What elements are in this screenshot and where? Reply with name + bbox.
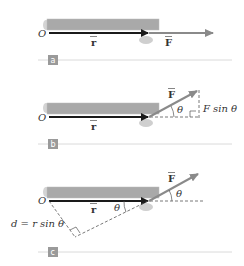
panel-badge-a-text: a — [51, 56, 56, 65]
panel-b: θ F sin θ O r F b — [38, 89, 237, 150]
rod — [47, 19, 159, 30]
panel-badge-b-text: b — [51, 140, 56, 149]
r-label: r — [91, 37, 97, 48]
panel-badge-c-text: c — [51, 248, 55, 257]
panel-c: θ θ O r F d = r sin θ c — [11, 173, 232, 258]
r-label: r — [91, 204, 97, 215]
rod — [47, 187, 159, 198]
F-line-extension-dashed — [75, 201, 148, 237]
r-label: r — [91, 121, 97, 132]
theta-arc-top — [169, 190, 172, 201]
moment-arm-label: d = r sin θ — [11, 218, 64, 229]
theta-label: θ — [177, 104, 183, 115]
pivot-knob — [139, 36, 153, 44]
F-label: F — [165, 37, 172, 48]
origin-label: O — [38, 112, 46, 123]
F-label: F — [168, 89, 175, 100]
right-angle-marker — [190, 111, 196, 117]
F-sin-theta-label: F sin θ — [202, 103, 237, 114]
pivot-knob — [139, 119, 153, 127]
theta-label-top: θ — [176, 188, 182, 199]
torque-diagram: O r F a θ F sin θ O r F b — [0, 0, 244, 266]
theta-arc-inner — [124, 201, 126, 212]
right-angle-marker — [70, 227, 80, 233]
rod — [47, 103, 159, 114]
panel-a: O r F a — [38, 19, 232, 65]
origin-label: O — [38, 28, 46, 39]
theta-label-inner: θ — [114, 202, 120, 213]
theta-arc — [171, 106, 174, 117]
F-label: F — [168, 173, 175, 184]
origin-label: O — [38, 195, 46, 206]
